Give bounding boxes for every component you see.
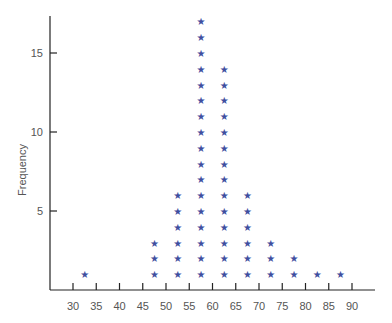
star-marker: ★	[196, 64, 205, 75]
star-marker: ★	[243, 238, 252, 249]
star-marker: ★	[243, 206, 252, 217]
star-marker: ★	[196, 48, 205, 59]
y-tick-label: 5	[37, 205, 43, 217]
x-tick-label: 70	[253, 300, 265, 312]
star-marker: ★	[220, 269, 229, 280]
star-marker: ★	[220, 80, 229, 91]
star-marker: ★	[243, 222, 252, 233]
star-marker: ★	[220, 143, 229, 154]
star-marker: ★	[173, 190, 182, 201]
y-axis-title: Frequency	[16, 144, 28, 196]
star-marker: ★	[173, 238, 182, 249]
star-marker: ★	[220, 159, 229, 170]
star-marker: ★	[289, 253, 298, 264]
star-marker: ★	[220, 127, 229, 138]
star-marker: ★	[220, 222, 229, 233]
x-tick-label: 90	[346, 300, 358, 312]
star-marker: ★	[313, 269, 322, 280]
star-marker: ★	[220, 190, 229, 201]
x-tick-label: 35	[90, 300, 102, 312]
star-marker: ★	[336, 269, 345, 280]
star-marker: ★	[220, 95, 229, 106]
star-marker: ★	[243, 269, 252, 280]
x-tick-label: 40	[113, 300, 125, 312]
star-marker: ★	[220, 174, 229, 185]
y-tick-label: 15	[31, 47, 43, 59]
star-marker: ★	[220, 238, 229, 249]
star-marker: ★	[196, 80, 205, 91]
star-marker: ★	[173, 269, 182, 280]
star-marker: ★	[266, 253, 275, 264]
x-tick-label: 30	[67, 300, 79, 312]
star-marker: ★	[266, 238, 275, 249]
star-marker: ★	[173, 253, 182, 264]
star-marker: ★	[220, 111, 229, 122]
star-marker: ★	[196, 159, 205, 170]
x-tick-label: 75	[276, 300, 288, 312]
star-marker: ★	[220, 64, 229, 75]
dot-plot-chart: 5101530354045505560657075808590 ★★★★★★★★…	[0, 0, 392, 323]
star-marker: ★	[196, 16, 205, 27]
x-tick-label: 55	[183, 300, 195, 312]
star-marker: ★	[196, 127, 205, 138]
star-marker: ★	[220, 206, 229, 217]
x-tick-label: 85	[323, 300, 335, 312]
star-marker: ★	[196, 190, 205, 201]
star-marker: ★	[150, 253, 159, 264]
star-marker: ★	[173, 206, 182, 217]
star-marker: ★	[243, 190, 252, 201]
x-tick-label: 50	[160, 300, 172, 312]
star-marker: ★	[150, 269, 159, 280]
star-marker: ★	[196, 222, 205, 233]
star-marker: ★	[196, 174, 205, 185]
x-tick-label: 45	[137, 300, 149, 312]
star-marker: ★	[80, 269, 89, 280]
star-marker: ★	[289, 269, 298, 280]
star-marker: ★	[150, 238, 159, 249]
y-tick-label: 10	[31, 126, 43, 138]
x-tick-label: 60	[206, 300, 218, 312]
star-marker: ★	[243, 253, 252, 264]
star-marker: ★	[196, 95, 205, 106]
star-marker: ★	[196, 143, 205, 154]
x-tick-label: 65	[230, 300, 242, 312]
star-marker: ★	[196, 111, 205, 122]
star-marker: ★	[220, 253, 229, 264]
star-marker: ★	[196, 238, 205, 249]
x-tick-label: 80	[299, 300, 311, 312]
star-marker: ★	[196, 253, 205, 264]
star-marker: ★	[196, 269, 205, 280]
star-marker: ★	[196, 206, 205, 217]
star-marker: ★	[196, 32, 205, 43]
data-markers: ★★★★★★★★★★★★★★★★★★★★★★★★★★★★★★★★★★★★★★★★…	[80, 16, 345, 280]
star-marker: ★	[266, 269, 275, 280]
star-marker: ★	[173, 222, 182, 233]
